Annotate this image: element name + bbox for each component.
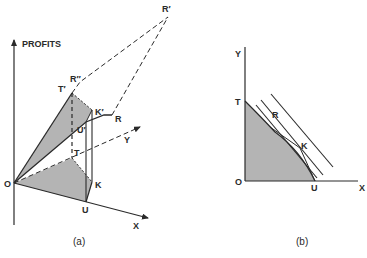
caption-a: (a) xyxy=(73,236,85,247)
k-label-b: K xyxy=(301,141,308,151)
uprime-label: U′ xyxy=(77,125,86,135)
r-rprime-dashed xyxy=(112,17,168,115)
y-label-a: Y xyxy=(124,135,130,145)
t-label-b: T xyxy=(235,97,241,107)
origin-label-a: O xyxy=(4,179,11,189)
r-label-a: R xyxy=(115,114,122,124)
kprime-label: K′ xyxy=(95,107,104,117)
caption-b: (b) xyxy=(296,236,308,247)
profits-label: PROFITS xyxy=(22,39,61,49)
y-label-b: Y xyxy=(235,49,241,59)
u-label-b: U xyxy=(311,183,318,193)
rdoubleprime-label: R″ xyxy=(70,74,81,84)
rdoubleprime-rprime-dashed xyxy=(72,17,168,93)
tprime-label: T′ xyxy=(58,84,66,94)
x-label-b: X xyxy=(359,183,365,193)
diagram-canvas: PROFITS O X Y U K T T′ R″ K′ U′ R R′ (a)… xyxy=(0,0,367,258)
r-label-b: R xyxy=(272,110,279,120)
k-label-a: K xyxy=(95,180,102,190)
panel-b: Y T O U X R K (b) xyxy=(235,47,365,247)
u-label-a: U xyxy=(82,205,89,215)
rprime-label: R′ xyxy=(162,4,171,14)
origin-label-b: O xyxy=(235,177,242,187)
t-label-a: T xyxy=(74,148,80,158)
panel-a: PROFITS O X Y U K T T′ R″ K′ U′ R R′ (a) xyxy=(4,4,171,247)
x-label-a: X xyxy=(133,221,139,231)
